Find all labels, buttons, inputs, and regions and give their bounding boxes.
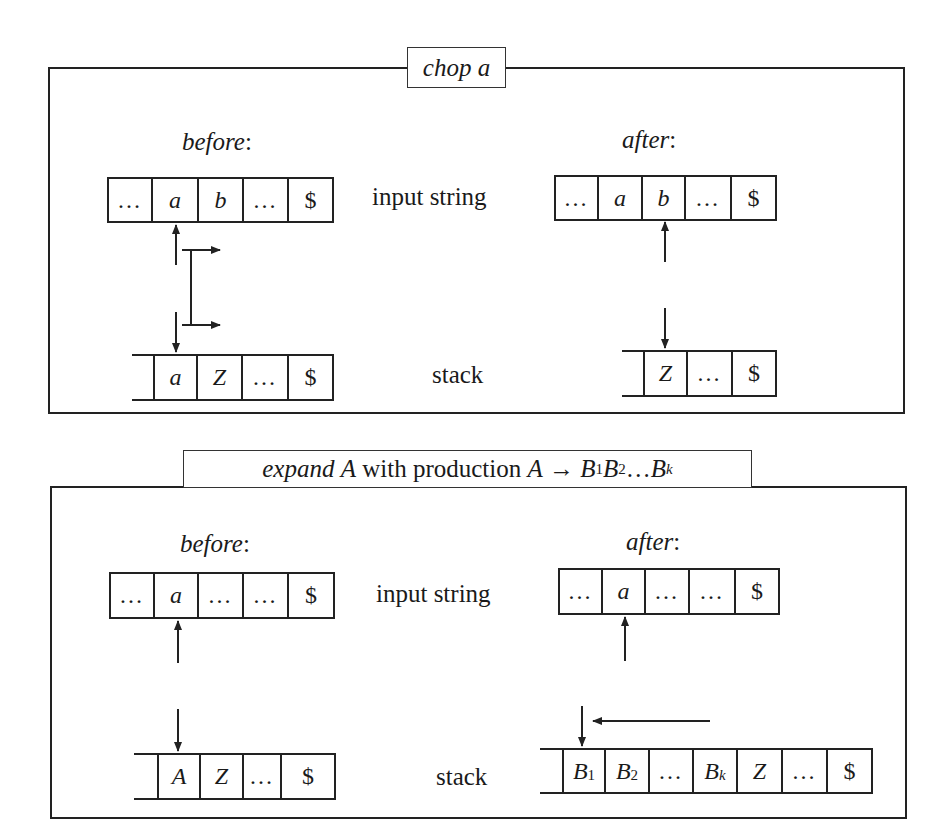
title-var: B <box>651 455 666 483</box>
title-text: with production <box>356 455 528 483</box>
title-var: B <box>580 455 595 483</box>
chop-after-label: after: <box>622 126 676 154</box>
tape-cell: b <box>199 177 244 223</box>
stack-symbol: … <box>792 758 818 785</box>
colon: : <box>245 128 252 155</box>
expand-before-label: before: <box>180 530 250 558</box>
title-dots: … <box>626 455 651 483</box>
expand-before-stack: A Z … $ <box>157 753 336 800</box>
colon: : <box>673 528 680 555</box>
chop-after-stack: Z … $ <box>643 350 777 397</box>
chop-after-text: after <box>622 126 669 153</box>
tape-cell: a <box>153 177 199 223</box>
stack-cell: A <box>157 753 201 800</box>
expand-after-input-tape: … a … … $ <box>558 568 780 615</box>
expand-after-text: after <box>626 528 673 555</box>
stack-cell: Z <box>738 748 783 794</box>
title-var: B <box>603 455 618 483</box>
tape-cell: … <box>686 175 732 221</box>
tape-cell: $ <box>289 572 335 619</box>
stack-cell: B2 <box>606 748 650 794</box>
tape-cell: $ <box>289 177 334 223</box>
chop-panel-title: chop a <box>407 47 506 88</box>
stack-cell: … <box>783 748 828 794</box>
stack-cell: … <box>244 753 282 800</box>
tape-cell: a <box>599 175 643 221</box>
colon: : <box>669 126 676 153</box>
title-var: A <box>341 455 356 483</box>
stack-cell: B1 <box>562 748 606 794</box>
tape-cell: … <box>558 568 603 615</box>
stack-symbol: B <box>573 758 588 785</box>
stack-cell: a <box>153 354 198 401</box>
tape-cell: … <box>690 568 736 615</box>
stack-cell: Bk <box>694 748 738 794</box>
stack-symbol: $ <box>844 758 856 785</box>
stack-cell: $ <box>282 753 336 800</box>
chop-before-stack: a Z … $ <box>153 354 334 401</box>
stack-symbol: B <box>704 758 719 785</box>
tape-cell: … <box>109 572 155 619</box>
stack-cell: Z <box>198 354 243 401</box>
tape-cell: … <box>646 568 690 615</box>
tape-cell: … <box>199 572 244 619</box>
expand-after-label: after: <box>626 528 680 556</box>
subscript: 1 <box>588 767 596 784</box>
expand-panel-title: expand A with production A → B1B2…Bk <box>183 450 752 488</box>
title-sub: 1 <box>596 461 604 478</box>
expand-before-text: before <box>180 530 243 557</box>
chop-after-input-tape: … a b … $ <box>554 175 777 221</box>
chop-input-string-label: input string <box>372 183 487 211</box>
stack-symbol: B <box>616 758 631 785</box>
title-sub: k <box>666 461 673 478</box>
chop-before-label: before: <box>182 128 252 156</box>
production-arrow: → <box>543 455 581 483</box>
tape-cell: b <box>643 175 686 221</box>
stack-open-end <box>134 753 159 800</box>
chop-before-text: before <box>182 128 245 155</box>
stack-cell: $ <box>828 748 873 794</box>
stack-cell: $ <box>289 354 334 401</box>
stack-cell: … <box>688 350 733 397</box>
stack-cell: … <box>650 748 694 794</box>
tape-cell: … <box>554 175 599 221</box>
subscript: 2 <box>631 767 639 784</box>
stack-cell: Z <box>201 753 244 800</box>
tape-cell: $ <box>732 175 777 221</box>
expand-before-input-tape: … a … … $ <box>109 572 335 619</box>
stack-symbol: … <box>658 758 684 785</box>
chop-stack-label: stack <box>432 361 483 389</box>
title-sub: 2 <box>618 461 626 478</box>
stack-symbol: Z <box>753 758 766 785</box>
expand-after-stack: B1 B2 … Bk Z … $ <box>562 748 873 794</box>
title-expand-word: expand <box>262 455 334 483</box>
stack-cell: Z <box>643 350 688 397</box>
chop-before-input-tape: … a b … $ <box>107 177 334 223</box>
tape-cell: … <box>107 177 153 223</box>
tape-cell: … <box>244 572 289 619</box>
colon: : <box>243 530 250 557</box>
tape-cell: a <box>603 568 646 615</box>
stack-cell: $ <box>733 350 777 397</box>
tape-cell: $ <box>736 568 780 615</box>
tape-cell: … <box>244 177 289 223</box>
title-var: A <box>527 455 542 483</box>
expand-input-string-label: input string <box>376 580 491 608</box>
subscript: k <box>719 767 726 784</box>
stack-cell: … <box>243 354 289 401</box>
expand-stack-label: stack <box>436 763 487 791</box>
tape-cell: a <box>155 572 199 619</box>
